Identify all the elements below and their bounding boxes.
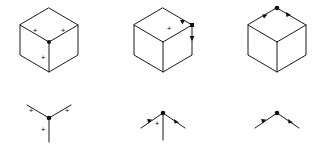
junction-3-leg-lower-left (255, 113, 277, 128)
cube-3 (248, 6, 306, 72)
cube-2: + (134, 8, 195, 72)
junction-3-center-dot (275, 111, 280, 116)
cube-2-arrow-right-vertical-edge (190, 36, 195, 41)
junction-3 (255, 111, 299, 128)
cube-2-right-vertex-dot (190, 23, 194, 27)
junction-1: + + + (27, 105, 71, 142)
cube-2-internal-top-left-edge (134, 25, 163, 42)
junction-3-leg-lower-right (277, 113, 299, 128)
cube-1-plus-top-right: + (61, 26, 66, 35)
junction-1-plus-upper-right: + (65, 106, 70, 115)
junction-2: + (141, 111, 185, 140)
cube-1-plus-top-left: + (33, 26, 38, 35)
figure-root: + + + + (0, 0, 323, 151)
junction-1-plus-upper-left: + (29, 106, 34, 115)
junction-1-center-dot (47, 116, 52, 121)
cube-3-internal-top-right-edge (277, 25, 306, 42)
junction-labeling-figure: + + + + (0, 0, 323, 151)
junction-2-plus-down: + (155, 119, 160, 128)
cube-3-apex-vertex-dot (275, 6, 280, 11)
cube-2-arrow-top-right-edge (180, 20, 185, 25)
junction-1-plus-down: + (41, 125, 46, 134)
junction-2-center-dot (161, 111, 166, 116)
cube-1-center-vertex-dot (47, 40, 51, 44)
cube-3-internal-top-left-edge (248, 25, 277, 42)
cube-1: + + + (20, 8, 78, 72)
cube-1-plus-vertical: + (41, 53, 46, 62)
cube-2-plus-internal-top: + (167, 24, 172, 33)
junction-2-leg-lower-left (141, 113, 163, 128)
junction-2-leg-lower-right (163, 113, 185, 128)
